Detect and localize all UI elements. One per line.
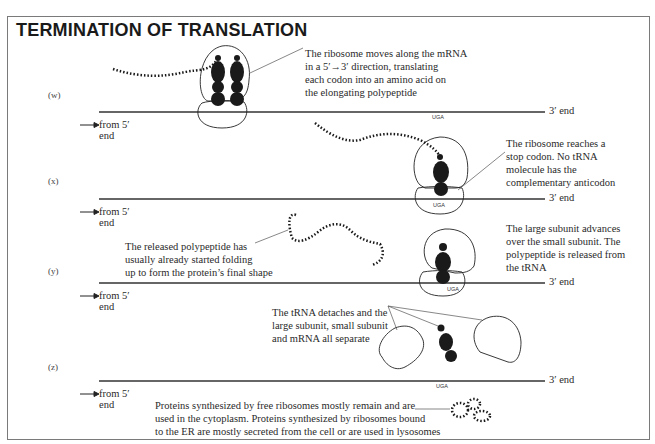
note-y: The large subunit advancesover the small… <box>506 222 625 274</box>
codon-label-z: UGA <box>436 383 448 389</box>
released-polypeptide-y <box>289 215 382 265</box>
large-subunit <box>474 316 521 362</box>
3-end-label-x: 3′ end <box>549 192 574 203</box>
from-5-label-x: from 5′end <box>99 206 130 228</box>
stage-label-y: (y) <box>48 266 59 276</box>
trna-icon-z <box>438 325 458 363</box>
folded-protein-icon <box>452 399 490 421</box>
3-end-label-w: 3′ end <box>549 105 574 116</box>
note-w: The ribosome moves along the mRNAin a 5′… <box>305 47 467 99</box>
note-z-bottom: Proteins synthesized by free ribosomes m… <box>155 399 440 438</box>
3-end-label-z: 3′ end <box>549 374 574 385</box>
arrow-icons <box>80 123 99 397</box>
note-z: The tRNA detaches and thelarge subunit, … <box>272 306 388 345</box>
polypeptide-x <box>315 123 440 157</box>
codon-label-x: UGA <box>433 202 445 208</box>
trna-icon-x <box>433 154 449 196</box>
codon-label-w: UGA <box>432 114 444 120</box>
stage-label-w: (w) <box>48 90 61 100</box>
3-end-label-y: 3′ end <box>549 276 574 287</box>
stage-label-x: (x) <box>48 176 59 186</box>
note-y-left: The released polypeptide hasusually alre… <box>125 240 273 279</box>
note-x: The ribosome reaches astop codon. No tRN… <box>506 137 615 189</box>
trna-icon-y <box>435 243 451 284</box>
from-5-label-w: from 5′end <box>99 119 130 141</box>
from-5-label-z: from 5′end <box>99 388 130 410</box>
from-5-label-y: from 5′end <box>99 290 130 312</box>
stage-label-z: (z) <box>48 362 58 372</box>
codon-label-y: UGA <box>447 286 459 292</box>
